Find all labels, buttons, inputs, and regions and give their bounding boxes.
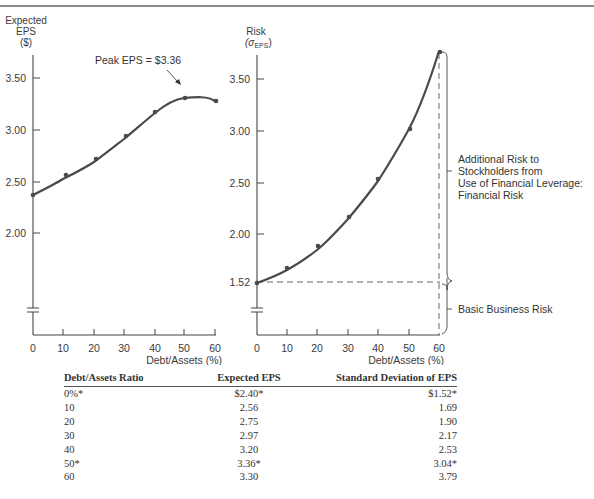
cell-expected-eps: 3.20 — [184, 443, 314, 457]
business-risk-label: Basic Business Risk — [458, 303, 553, 315]
eps-x-label: Debt/Assets (%) — [146, 354, 222, 365]
risk-ytick: 1.52 — [230, 276, 251, 288]
cell-std-dev: 2.53 — [314, 443, 457, 457]
risk-ytick: 3.00 — [230, 125, 251, 137]
risk-y-label-1: Risk — [246, 26, 266, 37]
cell-expected-eps: 3.30 — [184, 470, 314, 484]
risk-xtick: 10 — [281, 342, 293, 354]
cell-debt-assets: 10 — [64, 401, 184, 415]
financial-risk-label-4: Financial Risk — [458, 189, 524, 201]
cell-std-dev: $1.52* — [314, 387, 457, 401]
eps-curve — [33, 97, 215, 195]
risk-xtick: 60 — [433, 342, 445, 354]
risk-points — [255, 50, 443, 286]
risk-xtick: 50 — [403, 342, 415, 354]
peak-eps-annotation: Peak EPS = $3.36 — [95, 54, 181, 66]
eps-xtick: 30 — [118, 342, 130, 354]
eps-xtick: 10 — [57, 342, 69, 354]
cell-expected-eps: 2.75 — [184, 415, 314, 429]
risk-xtick: 0 — [254, 342, 260, 354]
eps-xtick: 20 — [88, 342, 100, 354]
table-row: 302.972.17 — [64, 429, 457, 443]
col-header-debt-assets: Debt/Assets Ratio — [64, 372, 184, 387]
eps-ytick: 2.00 — [6, 227, 27, 239]
risk-ytick: 3.50 — [230, 73, 251, 85]
eps-ytick: 3.00 — [6, 124, 27, 136]
risk-ytick: 2.50 — [230, 177, 251, 189]
risk-xtick: 20 — [311, 342, 323, 354]
cell-std-dev: 2.17 — [314, 429, 457, 443]
eps-xtick: 0 — [30, 342, 36, 354]
cell-expected-eps: 2.97 — [184, 429, 314, 443]
eps-y-label-2: EPS — [16, 26, 36, 37]
eps-xtick: 60 — [209, 342, 221, 354]
cell-expected-eps: 3.36* — [184, 457, 314, 471]
table-row: 202.751.90 — [64, 415, 457, 429]
cell-std-dev: 1.69 — [314, 401, 457, 415]
table-header-row: Debt/Assets Ratio Expected EPS Standard … — [64, 372, 457, 387]
eps-chart: Expected EPS ($) 3.50 3.00 2.50 2.00 — [5, 15, 222, 365]
peak-arrow — [167, 70, 178, 82]
eps-ytick: 2.50 — [6, 176, 27, 188]
risk-xtick: 40 — [372, 342, 384, 354]
cell-std-dev: 1.90 — [314, 415, 457, 429]
cell-debt-assets: 30 — [64, 429, 184, 443]
financial-risk-label-2: Stockholders from — [458, 165, 543, 177]
eps-y-label-3: ($) — [20, 37, 32, 48]
table-row: 50*3.36*3.04* — [64, 457, 457, 471]
eps-ytick: 3.50 — [6, 72, 27, 84]
risk-curve — [257, 51, 439, 283]
col-header-std-dev: Standard Deviation of EPS — [314, 372, 457, 387]
financial-risk-label-1: Additional Risk to — [458, 153, 539, 165]
col-header-expected-eps: Expected EPS — [184, 372, 314, 387]
cell-debt-assets: 60 — [64, 470, 184, 484]
risk-ytick: 2.00 — [230, 228, 251, 240]
cell-expected-eps: 2.56 — [184, 401, 314, 415]
table-row: 0%*$2.40*$1.52* — [64, 387, 457, 401]
eps-y-label-1: Expected — [5, 15, 47, 26]
eps-xtick: 40 — [149, 342, 161, 354]
cell-debt-assets: 40 — [64, 443, 184, 457]
cell-std-dev: 3.79 — [314, 470, 457, 484]
cell-debt-assets: 0%* — [64, 387, 184, 401]
table-row: 102.561.69 — [64, 401, 457, 415]
charts-canvas: Expected EPS ($) 3.50 3.00 2.50 2.00 — [0, 0, 594, 365]
table-row: 603.303.79 — [64, 470, 457, 484]
business-risk-brace — [442, 284, 447, 334]
eps-data-table: Debt/Assets Ratio Expected EPS Standard … — [64, 372, 457, 484]
risk-xtick: 30 — [342, 342, 354, 354]
cell-debt-assets: 20 — [64, 415, 184, 429]
financial-risk-label-3: Use of Financial Leverage: — [458, 177, 583, 189]
risk-chart: Risk (σEPS) 3.50 3.00 2.50 2.00 1.52 0 1… — [230, 26, 583, 365]
cell-std-dev: 3.04* — [314, 457, 457, 471]
risk-x-label: Debt/Assets (%) — [368, 354, 444, 365]
cell-expected-eps: $2.40* — [184, 387, 314, 401]
cell-debt-assets: 50* — [64, 457, 184, 471]
risk-y-label-2: (σEPS) — [245, 37, 272, 49]
eps-xtick: 50 — [178, 342, 190, 354]
table-row: 403.202.53 — [64, 443, 457, 457]
